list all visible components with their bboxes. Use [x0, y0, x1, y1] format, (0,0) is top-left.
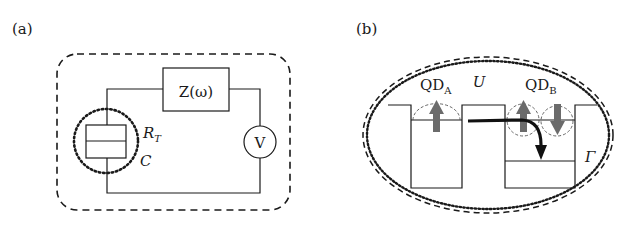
panel-a: (a) Z(ω) RT C V: [12, 20, 290, 210]
figure: (a) Z(ω) RT C V (b): [0, 0, 626, 231]
environment-ellipse-dotted: [367, 61, 609, 209]
spin-up-arrow-a: [429, 100, 444, 132]
panel-b: (b) QDA U QDB Γ: [356, 20, 613, 213]
tunneling-arrow-head: [535, 145, 547, 160]
interaction-label: U: [473, 73, 487, 91]
wire-top-left: [107, 89, 163, 125]
potential-profile: [388, 105, 597, 188]
impedance-label: Z(ω): [179, 83, 213, 101]
junction-resistance-label: RT: [142, 124, 162, 144]
voltmeter-label: V: [254, 134, 267, 152]
tunneling-rate-label: Γ: [584, 148, 596, 166]
panel-b-label: (b): [356, 20, 377, 38]
qd-b-label: QDB: [525, 76, 557, 96]
panel-a-label: (a): [12, 20, 33, 38]
qd-a-label: QDA: [420, 76, 452, 96]
junction-capacitance-label: C: [140, 152, 152, 170]
wire-top-right: [229, 89, 260, 126]
